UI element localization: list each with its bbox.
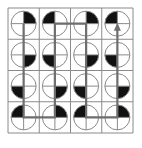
- quadrant-grid-diagram: [0, 0, 142, 148]
- grid-lines: [8, 8, 133, 133]
